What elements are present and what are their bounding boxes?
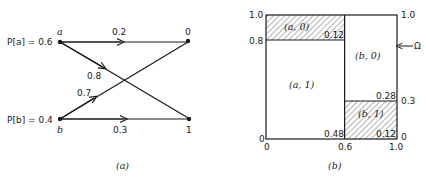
region-b1-area: 0.12 (376, 129, 396, 139)
edge-a-1-arrow (60, 42, 103, 67)
node-a (58, 40, 62, 44)
output-0-symbol: 0 (185, 27, 191, 37)
omega-label: Ω (414, 41, 421, 51)
region-a1-area: 0.48 (324, 129, 344, 139)
input-b-symbol: b (57, 124, 63, 135)
x-tick-0.6: 0.6 (338, 142, 353, 152)
panel-a-caption: (a) (116, 160, 129, 171)
edge-b-1-label: 0.3 (113, 125, 127, 135)
x-tick-0: 0 (264, 142, 270, 152)
edge-a-1-label: 0.8 (87, 71, 102, 81)
right-tick-0.3: 0.3 (401, 96, 415, 106)
output-1-symbol: 1 (186, 125, 192, 135)
node-b (58, 117, 62, 121)
region-a0-area: 0.12 (324, 30, 344, 40)
region-b0-area: 0.28 (376, 91, 396, 101)
edge-b-0-label: 0.7 (77, 88, 91, 98)
prob-b-label: P[b] = 0.4 (7, 115, 53, 125)
left-tick-1.0: 1.0 (249, 10, 264, 20)
node-0 (186, 39, 190, 43)
left-tick-0.8: 0.8 (249, 36, 264, 46)
panel-b-caption: (b) (328, 160, 342, 171)
edge-b-0-arrow (60, 98, 94, 119)
figure-canvas: P[a] = 0.6 P[b] = 0.4 a b 0 1 0.2 0.8 0.… (0, 0, 426, 179)
input-a-symbol: a (57, 26, 63, 37)
sample-space-diagram: (a, 0) (a, 1) (b, 0) (b, 1) 0.12 0.48 0.… (249, 10, 421, 171)
region-a0-label: (a, 0) (284, 21, 309, 32)
region-b1-label: (b, 1) (358, 108, 384, 119)
prob-a-label: P[a] = 0.6 (7, 37, 53, 47)
x-tick-1.0: 1.0 (389, 142, 404, 152)
right-tick-1.0: 1.0 (401, 10, 416, 20)
node-1 (187, 117, 191, 121)
right-tick-0: 0 (401, 132, 407, 142)
region-a1-label: (a, 1) (289, 79, 314, 90)
region-b0-label: (b, 0) (355, 50, 381, 61)
edge-a-0-label: 0.2 (112, 27, 126, 37)
channel-diagram: P[a] = 0.6 P[b] = 0.4 a b 0 1 0.2 0.8 0.… (7, 26, 192, 171)
